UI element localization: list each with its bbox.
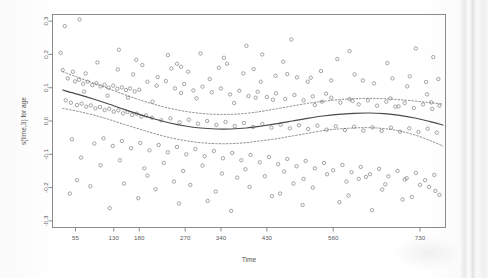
data-point <box>130 113 133 116</box>
data-point <box>117 48 120 51</box>
data-point <box>329 79 332 82</box>
data-point <box>434 189 437 192</box>
y-axis-tick-label: -0.2 <box>42 182 49 193</box>
data-point <box>151 100 154 103</box>
data-point <box>362 129 365 132</box>
data-point <box>282 60 285 63</box>
data-point <box>169 117 172 120</box>
data-point <box>187 118 190 121</box>
data-point <box>408 127 411 130</box>
data-point <box>339 101 342 104</box>
data-point <box>307 127 310 130</box>
y-axis-tick-label: 0.3 <box>42 16 49 25</box>
scanned-page: 0.30.20.10.0-0.1-0.2-0.3 551301802703404… <box>0 0 488 278</box>
data-point <box>418 183 421 186</box>
data-point <box>286 157 289 160</box>
data-point <box>139 141 142 144</box>
data-point <box>89 185 92 188</box>
data-point <box>387 175 390 178</box>
data-point <box>406 85 409 88</box>
data-point <box>435 131 438 134</box>
data-point <box>375 104 378 107</box>
data-point <box>357 177 360 180</box>
data-point <box>154 188 157 191</box>
data-point <box>421 103 424 106</box>
data-point <box>68 192 71 195</box>
data-point <box>417 130 420 133</box>
data-point <box>248 185 251 188</box>
data-point <box>334 125 337 128</box>
x-axis-tick-label: 430 <box>262 234 273 241</box>
data-point <box>228 93 231 96</box>
data-point <box>438 193 441 196</box>
x-axis-tick-label: 340 <box>216 234 227 241</box>
data-point <box>247 94 250 97</box>
y-axis-tick-label: 0.1 <box>42 83 49 92</box>
data-point <box>131 73 134 76</box>
x-axis-tick-label: 730 <box>415 234 426 241</box>
data-point <box>112 84 115 87</box>
data-point <box>155 84 158 87</box>
data-point <box>116 68 119 71</box>
data-point <box>297 124 300 127</box>
x-axis-tick-label: 560 <box>328 234 339 241</box>
data-point <box>120 139 123 142</box>
data-point <box>384 183 387 186</box>
data-point <box>361 79 364 82</box>
x-axis-tick-label: 180 <box>134 234 145 241</box>
data-point <box>252 67 255 70</box>
data-point <box>185 153 188 156</box>
x-axis-tick-label: 270 <box>180 234 191 241</box>
data-point <box>59 51 62 54</box>
data-point <box>353 73 356 76</box>
data-point <box>319 69 322 72</box>
data-point <box>93 142 96 145</box>
data-point <box>135 58 138 61</box>
data-point <box>205 119 208 122</box>
data-point <box>290 38 293 41</box>
smooth-term-chart: 0.30.20.10.0-0.1-0.2-0.3 551301802703404… <box>0 0 488 278</box>
data-point <box>89 104 92 107</box>
data-point <box>222 56 225 59</box>
data-point <box>249 153 252 156</box>
data-point <box>103 108 106 111</box>
data-point <box>146 80 149 83</box>
data-point <box>81 82 84 85</box>
data-point <box>73 80 76 83</box>
data-point <box>94 107 97 110</box>
data-point <box>181 169 184 172</box>
data-point <box>103 83 106 86</box>
data-point <box>166 53 169 56</box>
data-point <box>426 127 429 130</box>
data-point <box>258 161 261 164</box>
data-point <box>271 98 274 101</box>
data-point <box>408 75 411 78</box>
data-point <box>99 164 102 167</box>
data-point <box>208 77 211 80</box>
data-point <box>137 197 140 200</box>
data-point <box>391 77 394 80</box>
data-point <box>112 110 115 113</box>
data-point <box>274 92 277 95</box>
data-point <box>313 167 316 170</box>
data-point <box>261 53 264 56</box>
data-point <box>162 161 165 164</box>
data-point <box>187 70 190 73</box>
data-point <box>414 47 417 50</box>
data-point <box>244 168 247 171</box>
data-point <box>98 105 101 108</box>
data-point <box>254 96 257 99</box>
data-point <box>224 120 227 123</box>
data-point <box>157 143 160 146</box>
data-point <box>201 164 204 167</box>
data-point <box>170 67 173 70</box>
data-point <box>270 195 273 198</box>
data-point <box>293 93 296 96</box>
data-point <box>329 96 332 99</box>
data-point <box>230 151 233 154</box>
data-point <box>304 159 307 162</box>
data-point <box>385 100 388 103</box>
data-point <box>380 129 383 132</box>
data-point <box>80 102 83 105</box>
data-point <box>424 80 427 83</box>
